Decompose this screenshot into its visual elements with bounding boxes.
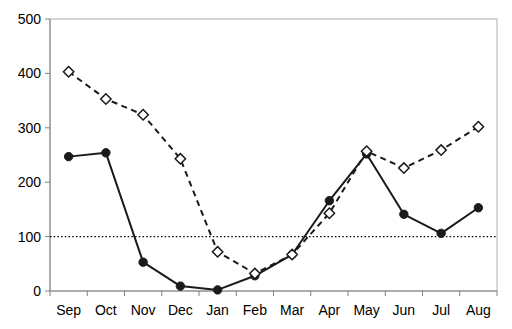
x-tick-label-apr: Apr bbox=[318, 302, 340, 318]
data-point bbox=[101, 94, 111, 104]
data-point bbox=[102, 149, 110, 157]
data-point bbox=[139, 258, 147, 266]
x-tick-label-oct: Oct bbox=[95, 302, 117, 318]
y-tick-label: 500 bbox=[18, 11, 42, 27]
y-tick-label: 100 bbox=[18, 229, 42, 245]
x-tick-label-nov: Nov bbox=[131, 302, 156, 318]
line-chart: 0100200300400500 SepOctNovDecJanFebMarAp… bbox=[0, 0, 512, 329]
x-tick-label-sep: Sep bbox=[56, 302, 81, 318]
y-tick-label: 300 bbox=[18, 120, 42, 136]
y-tick-label: 200 bbox=[18, 174, 42, 190]
data-point bbox=[473, 122, 483, 132]
data-point bbox=[176, 282, 184, 290]
series-lines bbox=[69, 72, 479, 290]
data-point bbox=[399, 163, 409, 173]
data-point bbox=[213, 286, 221, 294]
data-point bbox=[436, 145, 446, 155]
x-tick-label-feb: Feb bbox=[243, 302, 267, 318]
data-point bbox=[325, 196, 333, 204]
chart-screenshot: 0100200300400500 SepOctNovDecJanFebMarAp… bbox=[0, 0, 512, 329]
y-tick-label: 0 bbox=[33, 283, 41, 299]
data-point bbox=[400, 210, 408, 218]
x-tick-label-jun: Jun bbox=[393, 302, 416, 318]
data-point bbox=[64, 152, 72, 160]
x-tick-label-aug: Aug bbox=[466, 302, 491, 318]
series-markers bbox=[63, 67, 483, 295]
data-point bbox=[138, 110, 148, 120]
x-tick-label-jul: Jul bbox=[432, 302, 450, 318]
series-line-solid-filled-circle-series bbox=[69, 153, 479, 290]
x-axis-tick-labels: SepOctNovDecJanFebMarAprMayJunJulAug bbox=[56, 302, 491, 318]
x-axis-ticks bbox=[50, 291, 497, 296]
data-point bbox=[437, 229, 445, 237]
x-tick-label-jan: Jan bbox=[206, 302, 229, 318]
x-tick-label-dec: Dec bbox=[168, 302, 193, 318]
series-line-dashed-open-diamond-series bbox=[69, 72, 479, 274]
x-tick-label-mar: Mar bbox=[280, 302, 304, 318]
data-point bbox=[212, 247, 222, 257]
y-tick-label: 400 bbox=[18, 65, 42, 81]
y-axis-ticks bbox=[45, 19, 50, 291]
y-axis-tick-labels: 0100200300400500 bbox=[18, 11, 42, 299]
x-tick-label-may: May bbox=[353, 302, 379, 318]
data-point bbox=[474, 204, 482, 212]
